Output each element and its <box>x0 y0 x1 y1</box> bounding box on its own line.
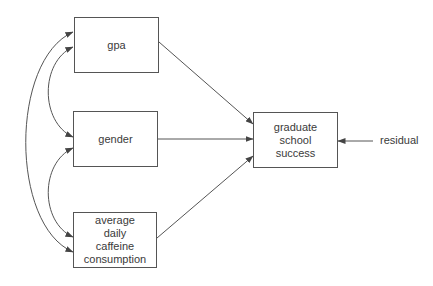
node-outcome-line-2: school <box>280 134 312 147</box>
covariance-gpa-caffeine <box>26 32 73 252</box>
node-gpa: gpa <box>74 17 159 73</box>
covariance-gpa-gender <box>48 47 73 137</box>
node-caffeine-line-3: caffeine <box>96 240 134 253</box>
residual-label: residual <box>380 134 419 147</box>
node-gender: gender <box>73 111 158 167</box>
node-caffeine-line-4: consumption <box>84 253 146 266</box>
node-gender-label: gender <box>98 133 132 146</box>
diagram-edges <box>0 0 433 286</box>
covariance-gender-caffeine <box>48 148 73 237</box>
node-caffeine: average daily caffeine consumption <box>73 212 157 268</box>
arrow-caffeine-to-outcome <box>157 156 253 238</box>
node-caffeine-line-1: average <box>95 214 135 227</box>
node-caffeine-line-2: daily <box>104 227 127 240</box>
node-outcome-line-1: graduate <box>274 121 317 134</box>
arrow-gpa-to-outcome <box>159 42 253 124</box>
node-outcome: graduate school success <box>253 112 338 168</box>
node-outcome-line-3: success <box>276 147 316 160</box>
node-gpa-label: gpa <box>107 39 125 52</box>
